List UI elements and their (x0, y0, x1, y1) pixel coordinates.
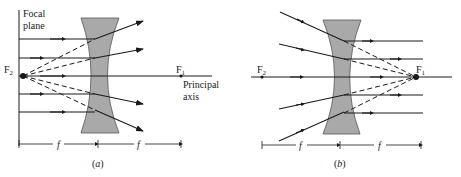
principal-axis-label-line2: axis (183, 91, 199, 102)
f2-label-b: F2 (257, 64, 267, 77)
focal-length-right-a: f (137, 139, 141, 150)
f2-label-a: F2 (4, 64, 14, 77)
focal-length-right-b: f (378, 140, 382, 151)
focal-length-left-b: f (299, 140, 303, 151)
principal-axis-label-line1: Principal (183, 79, 219, 90)
dimension-line-a (19, 140, 181, 148)
diverging-lens-diagram: Focal plane F2 F1 Principal axis f f (a) (0, 0, 461, 177)
caption-a: (a) (92, 158, 104, 170)
virtual-rays-a (23, 39, 95, 110)
focal-plane-label-line2: plane (23, 20, 45, 31)
caption-b: (b) (334, 158, 346, 170)
panel-a: Focal plane F2 F1 Principal axis f f (a) (4, 8, 219, 170)
dimension-line-b (262, 141, 421, 149)
focal-plane-label-line1: Focal (23, 8, 45, 19)
panel-b: F2 F1 f f (b) (251, 12, 452, 170)
focal-length-left-a: f (57, 139, 61, 150)
f1-label-a: F1 (176, 64, 186, 77)
